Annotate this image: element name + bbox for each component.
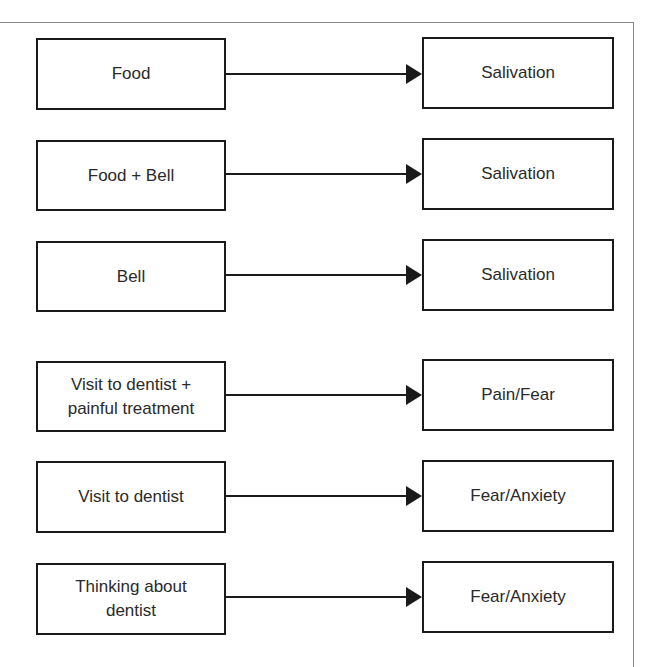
stimulus-box-bell: Bell — [36, 241, 226, 312]
frame-right-border — [633, 22, 634, 667]
stimulus-label: Bell — [117, 265, 145, 289]
response-box-salivation: Salivation — [422, 37, 614, 109]
response-label: Fear/Anxiety — [470, 484, 565, 508]
arrow-icon — [226, 264, 422, 286]
frame-top-border — [0, 22, 634, 23]
response-label: Salivation — [481, 162, 555, 186]
stimulus-box-food: Food — [36, 38, 226, 110]
stimulus-label: Food — [112, 62, 151, 86]
arrow-icon — [226, 63, 422, 85]
stimulus-label: Visit to dentist + painful treatment — [44, 373, 218, 421]
stimulus-label: Visit to dentist — [78, 485, 184, 509]
arrow-icon — [226, 485, 422, 507]
arrow-icon — [226, 163, 422, 185]
stimulus-label: Food + Bell — [88, 164, 174, 188]
response-box-fear-anxiety: Fear/Anxiety — [422, 460, 614, 532]
stimulus-box-thinking-dentist: Thinking about dentist — [36, 563, 226, 635]
response-label: Pain/Fear — [481, 383, 555, 407]
response-label: Salivation — [481, 263, 555, 287]
response-box-salivation: Salivation — [422, 138, 614, 210]
response-label: Salivation — [481, 61, 555, 85]
response-box-salivation: Salivation — [422, 239, 614, 311]
response-box-fear-anxiety: Fear/Anxiety — [422, 561, 614, 633]
stimulus-label: Thinking about dentist — [56, 575, 206, 623]
response-label: Fear/Anxiety — [470, 585, 565, 609]
arrow-icon — [226, 384, 422, 406]
stimulus-box-food-bell: Food + Bell — [36, 140, 226, 211]
stimulus-box-visit-dentist: Visit to dentist — [36, 461, 226, 533]
stimulus-box-dentist-painful: Visit to dentist + painful treatment — [36, 361, 226, 432]
response-box-pain-fear: Pain/Fear — [422, 359, 614, 431]
arrow-icon — [226, 586, 422, 608]
